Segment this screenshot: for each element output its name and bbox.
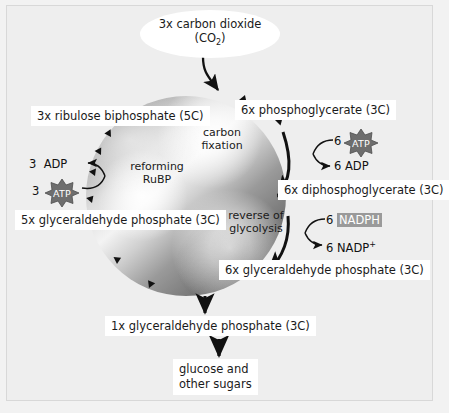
right-nadp-plus: 6 NADP+ bbox=[326, 238, 376, 255]
label-carbon-fixation: carbon fixation bbox=[187, 126, 257, 152]
atp-star-right: ATP bbox=[344, 129, 378, 157]
right-adp: 6 ADP bbox=[334, 159, 369, 173]
label-reforming-rubp: reforming RuBP bbox=[120, 160, 194, 186]
atp-star-right-label: ATP bbox=[352, 138, 370, 149]
output-glyceraldehyde-phosphate-1x: 1x glyceraldehyde phosphate (3C) bbox=[105, 316, 316, 336]
atp-star-left-label: ATP bbox=[53, 188, 71, 199]
calvin-cycle-diagram: 3x carbon dioxide (CO2) 3x ribulose biph… bbox=[0, 0, 449, 413]
output-glucose: glucose and other sugars bbox=[173, 359, 258, 395]
input-carbon-dioxide: 3x carbon dioxide (CO2) bbox=[140, 10, 280, 58]
input-line-1: 3x carbon dioxide bbox=[159, 17, 262, 31]
node-phosphoglycerate: 6x phosphoglycerate (3C) bbox=[235, 100, 396, 120]
right-nadph-label: NADPH bbox=[337, 213, 382, 227]
node-glyceraldehyde-phosphate-5x: 5x glyceraldehyde phosphate (3C) bbox=[15, 210, 226, 230]
right-atp-count: 6 bbox=[334, 134, 341, 148]
atp-star-left: ATP bbox=[45, 179, 79, 207]
node-diphosphoglycerate: 6x diphosphoglycerate (3C) bbox=[278, 180, 449, 200]
right-nadph-count: 6 bbox=[326, 213, 333, 227]
node-rubp: 3x ribulose biphosphate (5C) bbox=[31, 106, 210, 126]
input-line-2: (CO2) bbox=[194, 31, 225, 50]
left-adp: 3 ADP bbox=[29, 157, 67, 171]
left-atp-count: 3 bbox=[32, 184, 39, 198]
node-glyceraldehyde-phosphate-6x: 6x glyceraldehyde phosphate (3C) bbox=[219, 260, 430, 280]
label-reverse-of-glycolysis: reverse of glycolysis bbox=[214, 209, 298, 235]
